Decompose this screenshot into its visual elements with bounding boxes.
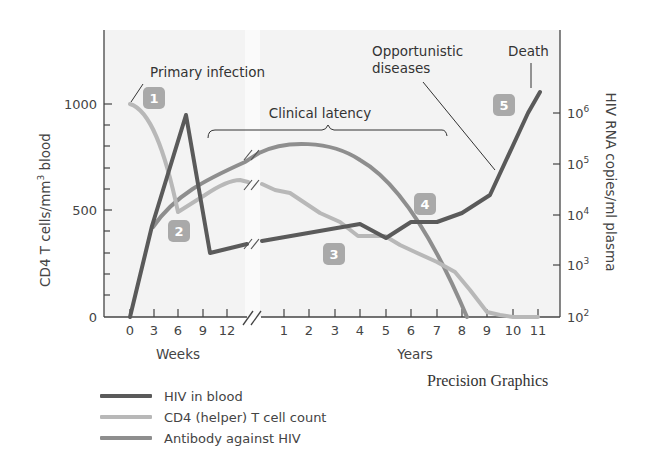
left-axis-title: CD4 T cells/mm3 blood: [36, 133, 53, 287]
svg-text:3: 3: [329, 247, 338, 262]
svg-text:2: 2: [174, 224, 183, 239]
stage-badge-4: 4: [414, 193, 436, 215]
legend-item-antibody: Antibody against HIV: [100, 428, 326, 448]
svg-text:5: 5: [499, 98, 508, 113]
x-tick-year-11: 11: [530, 323, 547, 338]
x-tick-week-3: 3: [150, 323, 158, 338]
x-tick-year-8: 8: [458, 323, 466, 338]
right-tick-1e4: 104: [567, 206, 590, 223]
credit-label: Precision Graphics: [427, 372, 548, 390]
stage-badge-1: 1: [143, 87, 165, 109]
right-tick-1e3: 103: [567, 256, 589, 273]
right-axis-title: HIV RNA copies/ml plasma: [603, 93, 619, 272]
x-tick-year-3: 3: [331, 323, 339, 338]
legend-label-antibody: Antibody against HIV: [164, 431, 301, 446]
legend-label-cd4: CD4 (helper) T cell count: [164, 410, 326, 425]
legend-swatch-antibody: [100, 436, 152, 440]
primary-infection-label: Primary infection: [150, 64, 265, 80]
right-axis: 106 105 104 103 102 HIV RNA copies/ml pl…: [553, 30, 619, 325]
left-axis: 1000 500 0 CD4 T cells/mm3 blood: [36, 30, 112, 325]
stage-badge-5: 5: [493, 94, 515, 116]
x-tick-year-5: 5: [382, 323, 390, 338]
x-tick-week-0: 0: [126, 323, 134, 338]
legend-swatch-hiv: [100, 394, 152, 398]
svg-text:4: 4: [420, 197, 429, 212]
x-tick-year-6: 6: [407, 323, 415, 338]
right-tick-1e5: 105: [567, 155, 589, 172]
left-tick-0: 0: [89, 310, 97, 325]
x-tick-week-12: 12: [219, 323, 236, 338]
stage-badge-2: 2: [168, 220, 190, 242]
left-tick-1000: 1000: [64, 97, 97, 112]
legend-item-cd4: CD4 (helper) T cell count: [100, 407, 326, 427]
x-tick-week-6: 6: [174, 323, 182, 338]
x-axis-years-label: Years: [396, 346, 433, 362]
svg-text:1: 1: [149, 91, 158, 106]
x-tick-year-7: 7: [433, 323, 441, 338]
x-tick-year-10: 10: [505, 323, 522, 338]
x-axis-weeks-label: Weeks: [156, 346, 200, 362]
legend-item-hiv: HIV in blood: [100, 386, 326, 406]
legend: HIV in blood CD4 (helper) T cell count A…: [100, 386, 326, 449]
x-tick-year-2: 2: [305, 323, 313, 338]
x-tick-year-9: 9: [483, 323, 491, 338]
x-tick-year-1: 1: [280, 323, 288, 338]
x-axis: 0 3 6 9 12 1 2 3 4 5 6 7 8 9 10 11 Weeks…: [104, 309, 560, 362]
hiv-progression-chart: 1000 500 0 CD4 T cells/mm3 blood 106 105…: [0, 0, 657, 474]
right-tick-1e6: 106: [567, 104, 590, 121]
stage-badge-3: 3: [323, 243, 345, 265]
clinical-latency-label: Clinical latency: [269, 105, 372, 121]
death-label: Death: [508, 43, 549, 59]
x-tick-week-9: 9: [199, 323, 207, 338]
x-tick-year-4: 4: [356, 323, 364, 338]
right-tick-1e2: 102: [567, 308, 589, 325]
left-tick-500: 500: [72, 203, 97, 218]
legend-swatch-cd4: [100, 415, 152, 419]
legend-label-hiv: HIV in blood: [164, 389, 243, 404]
